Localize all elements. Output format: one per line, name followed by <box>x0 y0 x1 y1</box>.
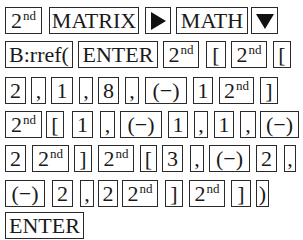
key-superscript: nd <box>236 79 249 92</box>
key-label: , <box>79 77 93 104</box>
key-label: 2 <box>57 183 68 205</box>
key-label: 1 <box>219 114 230 136</box>
key-label: 3 <box>167 148 178 170</box>
key-label: , <box>84 183 90 205</box>
key-superscript: nd <box>50 147 63 160</box>
key-label: 1 <box>173 114 184 136</box>
key-label: MATRIX <box>49 7 139 34</box>
key-label: MATH <box>176 7 248 34</box>
key-label: [ <box>278 44 285 66</box>
key-label: 2 <box>256 145 277 172</box>
key-label: 1 <box>77 114 88 136</box>
key-label: (−) <box>152 80 179 102</box>
key-label: ENTER <box>9 215 80 237</box>
key-label: , <box>194 148 200 170</box>
key-label: 8 <box>98 77 119 104</box>
key-label: 1 <box>214 111 234 138</box>
key-label: 2 <box>103 183 114 205</box>
key-right-triangle <box>145 7 171 34</box>
key-label: B:rref( <box>5 41 73 68</box>
key-label: , <box>194 111 208 138</box>
key-2nd: 2nd <box>5 7 42 34</box>
key-label: 2 <box>104 148 115 170</box>
key-superscript: nd <box>23 9 36 22</box>
down-triangle-icon <box>256 14 274 29</box>
key-2nd: 2nd <box>163 41 199 68</box>
key-label: , <box>125 77 139 104</box>
key-label: (−) <box>209 145 250 172</box>
key-label: 2 <box>98 180 118 207</box>
key-label: 1 <box>57 80 68 102</box>
key-label: 2 <box>11 114 22 136</box>
key-label: ] <box>165 180 183 207</box>
key-label: 1 <box>198 80 209 102</box>
key-2nd: 2nd <box>231 41 267 68</box>
key-label: (−) <box>120 111 162 138</box>
key-2nd: 2nd <box>98 145 134 172</box>
key-label: 1 <box>51 77 73 104</box>
key-label: [ <box>145 148 152 170</box>
right-triangle-icon <box>151 12 166 30</box>
key-label: ] <box>79 148 86 170</box>
key-label: 2 <box>224 80 235 102</box>
key-label: , <box>105 114 111 136</box>
key-label: [ <box>51 114 58 136</box>
key-label: , <box>83 80 89 102</box>
key-2nd: 2nd <box>5 111 42 138</box>
key-label: 8 <box>103 80 114 102</box>
key-label: [ <box>206 41 226 68</box>
key-label: 2 <box>11 10 22 32</box>
key-label: 2 <box>10 148 21 170</box>
key-superscript: nd <box>140 182 153 195</box>
key-label: , <box>198 114 204 136</box>
key-label: (−) <box>145 77 187 104</box>
key-label: ] <box>260 77 278 104</box>
key-label: ] <box>265 80 272 102</box>
key-label: , <box>36 80 42 102</box>
key-superscript: nd <box>116 147 129 160</box>
key-label: 1 <box>168 111 188 138</box>
key-label: ENTER <box>78 41 158 68</box>
key-label: MATH <box>181 10 243 32</box>
key-label: ) <box>259 183 266 205</box>
key-label: ] <box>237 183 244 205</box>
key-label: , <box>31 77 46 104</box>
key-label: MATRIX <box>52 10 136 32</box>
key-label: , <box>129 80 135 102</box>
key-label: 1 <box>72 111 93 138</box>
key-label: , <box>240 111 256 138</box>
key-2nd: 2nd <box>122 180 158 207</box>
key-label: [ <box>273 41 291 68</box>
key-label: (−) <box>127 114 154 136</box>
key-label: , <box>287 148 293 170</box>
key-label: , <box>245 114 251 136</box>
key-label: (−) <box>266 114 293 136</box>
key-label: , <box>284 145 296 172</box>
key-superscript: nd <box>207 182 220 195</box>
key-label: 2 <box>169 44 180 66</box>
key-label: ] <box>74 145 92 172</box>
key-label: ] <box>231 180 251 207</box>
key-label: 2 <box>52 180 73 207</box>
key-superscript: nd <box>249 43 262 56</box>
key-label: 1 <box>193 77 213 104</box>
key-label: ENTER <box>5 212 84 239</box>
key-label: 2 <box>10 80 21 102</box>
key-label: 2 <box>38 148 49 170</box>
key-label: [ <box>212 44 219 66</box>
key-label: , <box>80 180 94 207</box>
key-label: ENTER <box>83 44 154 66</box>
key-label: [ <box>46 111 64 138</box>
key-label: (−) <box>216 148 243 170</box>
key-label: (−) <box>5 180 45 207</box>
key-label: 2 <box>5 77 26 104</box>
key-label: [ <box>140 145 157 172</box>
key-label: 2 <box>195 183 206 205</box>
key-label: 2 <box>128 183 139 205</box>
key-superscript: nd <box>181 43 194 56</box>
key-label: 2 <box>237 44 248 66</box>
key-2nd: 2nd <box>32 145 69 172</box>
key-superscript: nd <box>23 113 36 126</box>
key-label: , <box>100 111 115 138</box>
key-label: 2 <box>261 148 272 170</box>
